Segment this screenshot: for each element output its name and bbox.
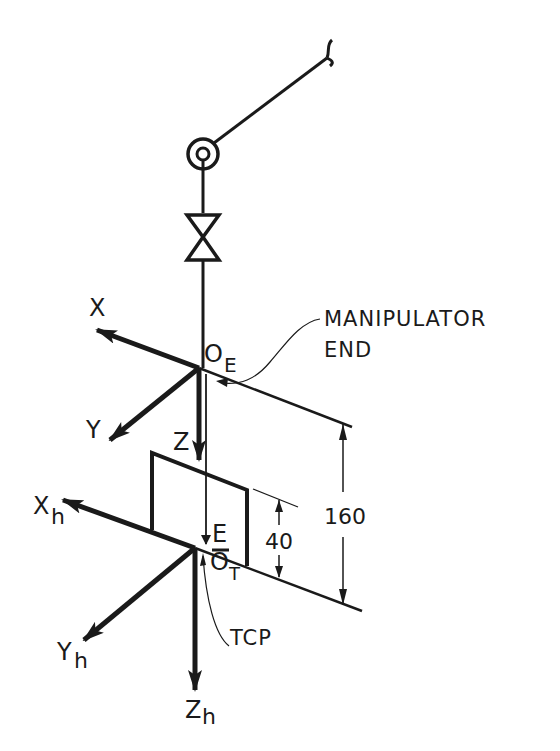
end-frame: X Y Z O E bbox=[85, 294, 237, 460]
xh-axis-arrow bbox=[63, 500, 195, 548]
vector-e-label: E bbox=[212, 520, 227, 548]
zh-axis-label: Z bbox=[185, 696, 201, 724]
xh-axis-label: X bbox=[33, 492, 49, 520]
zh-axis-subscript: h bbox=[202, 704, 216, 729]
x-axis-arrow bbox=[97, 330, 199, 368]
origin-oe-subscript: E bbox=[224, 353, 237, 377]
arm-link bbox=[214, 40, 332, 143]
yh-axis-label: Y bbox=[56, 638, 72, 666]
origin-ot-subscript: T bbox=[228, 563, 241, 584]
dimension-40-label: 40 bbox=[265, 529, 293, 554]
z-axis-label: Z bbox=[173, 428, 189, 456]
manipulator-end-leader-line bbox=[222, 319, 320, 383]
tcp-label: TCP bbox=[229, 626, 272, 650]
dimension-160: 160 bbox=[324, 424, 366, 605]
xh-axis-subscript: h bbox=[51, 504, 65, 529]
diagram-canvas: X Y Z O E E X h Y h Z h O T TCP MANIPULA… bbox=[0, 0, 560, 751]
origin-ot-label: O bbox=[210, 548, 229, 576]
tool-frame: X h Y h Z h O T bbox=[33, 492, 362, 729]
prismatic-joint-icon bbox=[187, 215, 219, 260]
dimension-160-label: 160 bbox=[324, 504, 366, 529]
yh-axis-arrow bbox=[84, 548, 195, 640]
upper-reference-line bbox=[199, 368, 352, 427]
dimension-40: 40 bbox=[253, 489, 298, 578]
tcp-leader-arrowhead bbox=[200, 553, 206, 566]
manipulator-end-label-line2: END bbox=[324, 338, 372, 362]
y-axis-label: Y bbox=[85, 416, 101, 444]
x-axis-label: X bbox=[89, 294, 105, 322]
manipulator-end-label-line1: MANIPULATOR bbox=[324, 307, 486, 331]
origin-oe-label: O bbox=[204, 340, 223, 368]
manipulator-end-leader-arrowhead bbox=[216, 378, 228, 387]
yh-axis-subscript: h bbox=[74, 648, 88, 673]
